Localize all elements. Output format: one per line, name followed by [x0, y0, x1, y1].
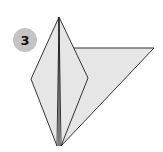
origami-diagram	[0, 0, 163, 152]
kite-left-half	[31, 17, 59, 146]
